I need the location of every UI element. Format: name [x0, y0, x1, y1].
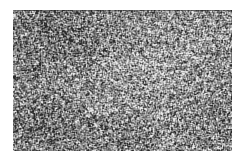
- texture-noise-surface: [13, 10, 232, 151]
- texture-panel: [13, 10, 232, 151]
- image-canvas: [0, 0, 244, 164]
